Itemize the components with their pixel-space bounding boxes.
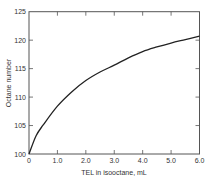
y-tick-labels: 100105110115120125 [14,8,26,157]
x-tick-label: 2.0 [81,157,91,164]
y-tick-label: 120 [14,37,26,44]
x-tick-label: 5.0 [166,157,176,164]
x-axis-label: TEL in isooctane, mL [81,169,147,176]
x-tick-label: 0 [27,157,31,164]
y-axis-label: Octane number [5,58,12,107]
plot-frame [29,12,200,154]
y-tick-label: 125 [14,8,26,15]
y-tick-label: 105 [14,122,26,129]
y-tick-label: 100 [14,151,26,158]
x-tick-label: 4.0 [138,157,148,164]
data-line [29,36,200,154]
x-tick-labels: 01.02.03.04.05.06.0 [27,157,204,164]
y-tick-label: 110 [15,94,26,101]
chart: 01.02.03.04.05.06.0 100105110115120125 T… [0,0,209,180]
x-tick-label: 6.0 [195,157,205,164]
y-tick-label: 115 [15,65,26,72]
x-tick-label: 3.0 [109,157,119,164]
x-tick-label: 1.0 [53,157,63,164]
axis-ticks [29,12,200,154]
